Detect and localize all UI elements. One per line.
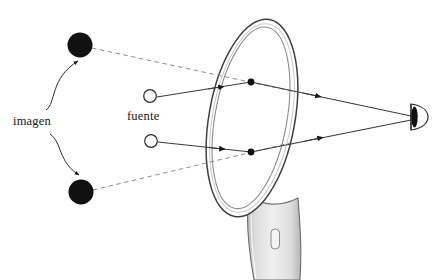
eye-pupil: [411, 107, 417, 128]
virtual-image-lower: [69, 180, 94, 205]
reflection-point-lower: [248, 149, 255, 156]
hand-mirror: [192, 12, 311, 224]
diagram-svg: [0, 0, 448, 280]
figure-canvas: imagen fuente: [0, 0, 448, 280]
virtual-image-upper: [68, 33, 93, 58]
callout-arrow-to-lower-image: [50, 134, 79, 175]
reflected-ray-upper-arrow: [303, 93, 321, 97]
observer-eye: [411, 104, 428, 130]
label-fuente: fuente: [127, 109, 159, 124]
callout-arrow-to-upper-image: [46, 61, 78, 110]
reflected-ray-lower-arrow: [305, 137, 323, 141]
light-source-upper: [144, 90, 157, 103]
handle-hole: [271, 229, 280, 249]
reflection-point-upper: [248, 79, 255, 86]
light-source-lower: [145, 135, 158, 148]
label-imagen: imagen: [13, 114, 51, 129]
